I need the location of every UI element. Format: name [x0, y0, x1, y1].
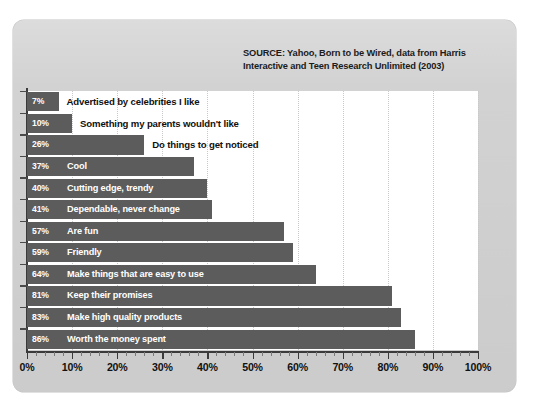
bar-category-label: Keep their promises: [67, 286, 152, 305]
x-axis-minor-tick: [370, 352, 371, 356]
y-axis-tick: [20, 328, 27, 329]
bar-series: 7%Advertised by celebrities I like10%Som…: [27, 91, 478, 350]
y-axis-tick: [20, 177, 27, 178]
x-axis-minor-tick: [379, 352, 380, 356]
bar-category-label: Cool: [67, 157, 87, 176]
x-axis-tick: [388, 352, 389, 359]
x-axis-minor-tick: [406, 352, 407, 356]
x-axis-minor-tick: [45, 352, 46, 356]
x-axis-tick-label: 50%: [242, 361, 263, 373]
x-axis-minor-tick: [243, 352, 244, 356]
bar-value-label: 40%: [32, 179, 49, 198]
x-axis-minor-tick: [180, 352, 181, 356]
bar-category-label: Friendly: [67, 243, 102, 262]
x-axis-minor-tick: [469, 352, 470, 356]
bar-category-label: Dependable, never change: [67, 200, 180, 219]
bar-row[interactable]: 40%Cutting edge, trendy: [27, 179, 478, 198]
bar-row[interactable]: 7%Advertised by celebrities I like: [27, 92, 478, 111]
x-axis-minor-tick: [325, 352, 326, 356]
bar-row[interactable]: 57%Are fun: [27, 222, 478, 241]
y-axis-tick: [20, 307, 27, 308]
y-axis-tick: [20, 221, 27, 222]
bar-value-label: 86%: [32, 330, 49, 349]
x-axis-minor-tick: [36, 352, 37, 356]
x-axis-minor-tick: [81, 352, 82, 356]
x-axis-minor-tick: [54, 352, 55, 356]
x-axis-minor-tick: [90, 352, 91, 356]
x-axis-minor-tick: [289, 352, 290, 356]
x-axis-minor-tick: [135, 352, 136, 356]
x-axis-tick: [343, 352, 344, 359]
x-axis-tick-label: 10%: [62, 361, 83, 373]
y-axis-tick: [20, 91, 27, 92]
x-axis-minor-tick: [451, 352, 452, 356]
y-axis-tick: [20, 134, 27, 135]
x-axis-minor-tick: [99, 352, 100, 356]
chart-figure: SOURCE: Yahoo, Born to be Wired, data fr…: [0, 0, 533, 418]
x-axis-minor-tick: [63, 352, 64, 356]
x-axis-minor-tick: [442, 352, 443, 356]
bar-category-label: Do things to get noticed: [152, 135, 258, 154]
x-axis-minor-tick: [280, 352, 281, 356]
x-axis-minor-tick: [198, 352, 199, 356]
x-axis-minor-tick: [216, 352, 217, 356]
bar-row[interactable]: 37%Cool: [27, 157, 478, 176]
x-axis-tick-label: 30%: [152, 361, 173, 373]
bar-value-label: 57%: [32, 222, 49, 241]
x-axis-minor-tick: [262, 352, 263, 356]
x-axis-minor-tick: [225, 352, 226, 356]
x-axis-tick: [433, 352, 434, 359]
x-axis-tick: [72, 352, 73, 359]
gridline: [478, 91, 479, 350]
bar-row[interactable]: 26%Do things to get noticed: [27, 135, 478, 154]
bar-category-label: Are fun: [67, 222, 98, 241]
bar-value-label: 81%: [32, 286, 49, 305]
x-axis-minor-tick: [271, 352, 272, 356]
bar-category-label: Make high quality products: [67, 308, 182, 327]
bar-row[interactable]: 83%Make high quality products: [27, 308, 478, 327]
y-axis-tick: [20, 285, 27, 286]
bar-category-label: Cutting edge, trendy: [67, 179, 153, 198]
x-axis-tick-label: 90%: [423, 361, 444, 373]
bar-value-label: 64%: [32, 265, 49, 284]
bar-value-label: 10%: [32, 114, 49, 133]
x-axis-tick-label: 0%: [20, 361, 35, 373]
x-axis-minor-tick: [352, 352, 353, 356]
y-axis-tick: [20, 264, 27, 265]
bar-category-label: Make things that are easy to use: [67, 265, 204, 284]
bar-row[interactable]: 41%Dependable, never change: [27, 200, 478, 219]
bar-value-label: 59%: [32, 243, 49, 262]
bar-value-label: 37%: [32, 157, 49, 176]
x-axis-tick: [27, 352, 28, 359]
x-axis-tick: [162, 352, 163, 359]
source-note: SOURCE: Yahoo, Born to be Wired, data fr…: [243, 47, 508, 73]
x-axis-tick-label: 70%: [332, 361, 353, 373]
x-axis-minor-tick: [153, 352, 154, 356]
bar-value-label: 7%: [32, 92, 44, 111]
x-axis-tick-label: 60%: [287, 361, 308, 373]
x-axis-minor-tick: [171, 352, 172, 356]
bar[interactable]: [27, 157, 194, 176]
x-axis-minor-tick: [316, 352, 317, 356]
x-axis-minor-tick: [307, 352, 308, 356]
bar-row[interactable]: 10%Something my parents wouldn't like: [27, 114, 478, 133]
y-axis-tick: [20, 199, 27, 200]
x-axis-minor-tick: [415, 352, 416, 356]
bar-value-label: 41%: [32, 200, 49, 219]
bar-row[interactable]: 81%Keep their promises: [27, 286, 478, 305]
bar[interactable]: [27, 222, 284, 241]
bar-row[interactable]: 86%Worth the money spent: [27, 330, 478, 349]
bar-row[interactable]: 64%Make things that are easy to use: [27, 265, 478, 284]
x-axis-minor-tick: [144, 352, 145, 356]
x-axis-tick: [253, 352, 254, 359]
y-axis-tick: [20, 156, 27, 157]
x-axis-minor-tick: [460, 352, 461, 356]
bar-category-label: Something my parents wouldn't like: [80, 114, 239, 133]
x-axis-minor-tick: [234, 352, 235, 356]
bar-row[interactable]: 59%Friendly: [27, 243, 478, 262]
x-axis-tick-label: 20%: [107, 361, 128, 373]
x-axis-tick: [117, 352, 118, 359]
x-axis-minor-tick: [108, 352, 109, 356]
bar-value-label: 26%: [32, 135, 49, 154]
x-axis-minor-tick: [424, 352, 425, 356]
